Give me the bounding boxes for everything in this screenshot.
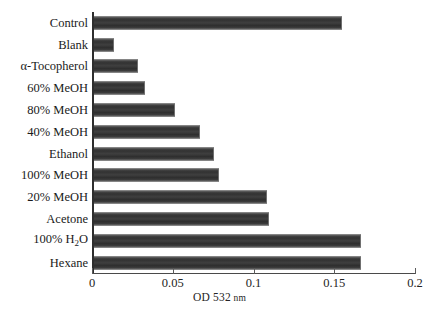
category-label: Control xyxy=(50,16,88,30)
bar xyxy=(93,16,342,29)
category-label: 100% H2O xyxy=(33,232,88,250)
x-axis-title: OD 532 nm xyxy=(0,291,439,303)
bar xyxy=(93,234,361,247)
bar xyxy=(93,60,138,73)
bar-chart: ControlBlankα-Tocopherol60% MeOH80% MeOH… xyxy=(0,0,439,316)
x-tick-mark xyxy=(334,268,335,274)
bar xyxy=(93,213,269,226)
x-axis-title-unit: nm xyxy=(231,293,246,303)
chart-row: α-Tocopherol xyxy=(0,56,439,78)
bar xyxy=(93,82,145,95)
bar xyxy=(93,125,200,138)
bar xyxy=(93,256,361,269)
chart-row: Control xyxy=(0,12,439,34)
category-label: Acetone xyxy=(46,212,88,226)
y-axis-line xyxy=(92,12,94,274)
bar xyxy=(93,191,267,204)
x-tick-mark xyxy=(415,268,416,274)
chart-row: Blank xyxy=(0,34,439,56)
chart-row: 60% MeOH xyxy=(0,77,439,99)
x-tick-label: 0.1 xyxy=(246,276,262,290)
x-tick-label: 0.15 xyxy=(323,276,345,290)
category-label: 100% MeOH xyxy=(21,168,88,182)
x-tick-label: 0 xyxy=(89,276,95,290)
x-tick-label: 0.05 xyxy=(162,276,184,290)
bar xyxy=(93,38,114,51)
bar xyxy=(93,169,219,182)
category-label: α-Tocopherol xyxy=(21,59,88,73)
category-label: 60% MeOH xyxy=(27,81,88,95)
category-label: 80% MeOH xyxy=(27,103,88,117)
chart-row: 20% MeOH xyxy=(0,186,439,208)
chart-row: 80% MeOH xyxy=(0,99,439,121)
x-tick-mark xyxy=(254,268,255,274)
x-tick-label: 0.2 xyxy=(407,276,423,290)
category-label: 20% MeOH xyxy=(27,190,88,204)
x-tick-mark xyxy=(92,268,93,274)
bar xyxy=(93,104,175,117)
bar xyxy=(93,147,214,160)
category-label: Ethanol xyxy=(49,147,88,161)
category-label: Blank xyxy=(58,38,88,52)
category-label: 40% MeOH xyxy=(27,125,88,139)
chart-row: 100% MeOH xyxy=(0,165,439,187)
chart-row: 100% H2O xyxy=(0,230,439,252)
x-axis-title-main: OD 532 xyxy=(193,291,231,303)
chart-row: Hexane xyxy=(0,252,439,274)
category-label: Hexane xyxy=(50,256,88,270)
chart-row: Ethanol xyxy=(0,143,439,165)
chart-row: 40% MeOH xyxy=(0,121,439,143)
x-tick-mark xyxy=(173,268,174,274)
chart-row: Acetone xyxy=(0,208,439,230)
